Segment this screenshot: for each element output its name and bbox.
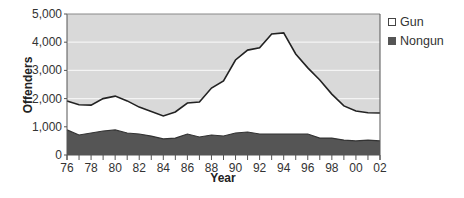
x-tick-label: 94 <box>277 161 291 175</box>
x-tick-label: 00 <box>349 161 363 175</box>
x-axis-title: Year <box>210 171 236 185</box>
y-tick-label: 4,000 <box>32 35 62 49</box>
x-tick-label: 92 <box>253 161 267 175</box>
y-tick-label: 5,000 <box>32 7 62 21</box>
x-tick-label: 84 <box>157 161 171 175</box>
y-tick-label: 0 <box>55 148 62 162</box>
x-tick-label: 82 <box>133 161 147 175</box>
x-tick-label: 96 <box>301 161 315 175</box>
legend-item-nongun: Nongun <box>388 31 444 50</box>
y-axis-title: Offenders <box>21 56 35 113</box>
legend-label-gun: Gun <box>400 15 424 29</box>
y-tick-label: 3,000 <box>32 63 62 77</box>
x-tick-label: 80 <box>108 161 122 175</box>
legend: Gun Nongun <box>388 12 444 50</box>
y-tick-label: 1,000 <box>32 120 62 134</box>
x-tick-label: 02 <box>373 161 387 175</box>
y-axis-ticks: 01,0002,0003,0004,0005,000 <box>32 7 67 162</box>
x-tick-label: 86 <box>181 161 195 175</box>
x-tick-label: 76 <box>60 161 74 175</box>
y-tick-label: 2,000 <box>32 92 62 106</box>
gun-swatch-icon <box>388 18 396 26</box>
legend-label-nongun: Nongun <box>400 34 444 48</box>
x-tick-label: 98 <box>325 161 339 175</box>
x-tick-label: 78 <box>84 161 98 175</box>
nongun-swatch-icon <box>388 37 396 45</box>
legend-item-gun: Gun <box>388 12 444 31</box>
